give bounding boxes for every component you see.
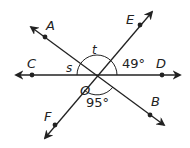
label-e: E <box>126 12 135 27</box>
angle-diagram: A E C D B F O s t 49° 95° <box>0 0 190 148</box>
point-b-dot <box>148 113 153 118</box>
label-b: B <box>151 94 160 109</box>
angle-s-label: s <box>66 61 72 75</box>
label-c: C <box>27 56 37 71</box>
point-f-dot <box>53 123 58 128</box>
label-f: F <box>44 109 52 124</box>
label-d: D <box>156 56 166 71</box>
label-a: A <box>45 18 55 33</box>
point-e-dot <box>138 23 143 28</box>
angle-95-label: 95° <box>86 95 109 110</box>
point-d-dot <box>160 73 165 78</box>
point-c-dot <box>30 73 35 78</box>
angle-49-label: 49° <box>122 56 145 71</box>
point-a-dot <box>43 35 48 40</box>
